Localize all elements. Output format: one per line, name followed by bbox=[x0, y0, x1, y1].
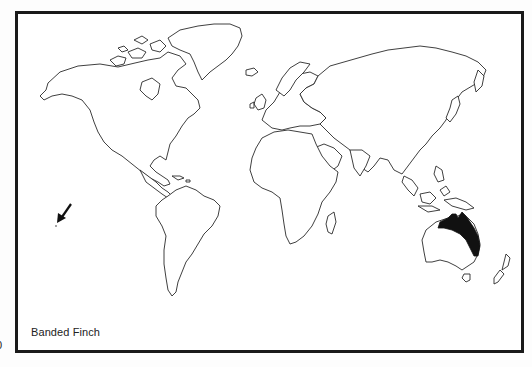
iceland bbox=[246, 68, 258, 76]
new-zealand bbox=[494, 254, 510, 284]
caribbean-islands bbox=[172, 176, 190, 182]
edge-mark: 0 bbox=[0, 339, 2, 351]
arrow-icon bbox=[57, 204, 71, 223]
tasmania bbox=[462, 274, 470, 282]
north-america bbox=[40, 52, 200, 186]
british-isles bbox=[250, 94, 266, 110]
india bbox=[350, 150, 370, 176]
madagascar bbox=[326, 212, 336, 234]
species-caption: Banded Finch bbox=[31, 326, 100, 338]
south-america bbox=[156, 186, 220, 296]
map-page: Banded Finch 0 bbox=[0, 0, 532, 367]
philippines bbox=[434, 166, 444, 182]
world-map bbox=[0, 0, 532, 367]
pacific-island-marker bbox=[55, 225, 57, 227]
greenland bbox=[168, 24, 242, 80]
